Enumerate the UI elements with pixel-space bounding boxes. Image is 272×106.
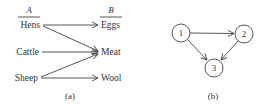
edge-1-2 xyxy=(190,33,234,34)
caption-a: (a) xyxy=(65,91,75,101)
codomain-item-meat: Meat xyxy=(101,47,121,57)
arrow-hens-meat xyxy=(43,26,98,51)
graph-node-2-label: 2 xyxy=(242,29,247,39)
caption-b: (b) xyxy=(208,91,219,101)
domain-item-cattle: Cattle xyxy=(16,47,39,57)
graph-node-3-label: 3 xyxy=(212,63,217,73)
graph-node-1-label: 1 xyxy=(179,28,184,38)
panel-b: 1 2 3 (b) xyxy=(172,24,253,101)
domain-item-hens: Hens xyxy=(20,20,40,30)
set-b-header: B xyxy=(108,5,114,15)
domain-item-sheep: Sheep xyxy=(15,73,38,83)
set-a-header: A xyxy=(25,5,32,15)
arrow-sheep-meat xyxy=(41,54,98,77)
panel-a: A B Hens Cattle Sheep Eggs Meat Wool (a) xyxy=(15,5,122,101)
codomain-item-eggs: Eggs xyxy=(101,20,120,30)
diagram-canvas: A B Hens Cattle Sheep Eggs Meat Wool (a)… xyxy=(0,0,272,106)
edge-2-3 xyxy=(221,41,238,60)
codomain-item-wool: Wool xyxy=(101,73,122,83)
edge-1-3 xyxy=(188,40,208,61)
